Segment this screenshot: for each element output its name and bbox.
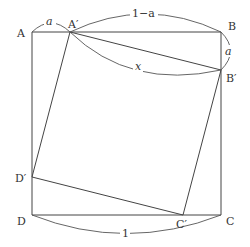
inner-square-A2B2C2D2 [32, 32, 221, 215]
vertex-label-B-prime: B′ [226, 72, 237, 85]
measure-label-BB2: a [225, 45, 232, 58]
vertex-label-C: C [226, 215, 234, 228]
vertex-label-D: D [17, 215, 26, 228]
vertex-label-D-prime: D′ [15, 172, 27, 185]
measure-label-AA2: a [46, 15, 53, 28]
measure-label-A2B2: x [135, 60, 142, 73]
vertex-label-A: A [16, 27, 26, 40]
measure-label-DC: 1 [122, 227, 129, 240]
outer-square-ABCD [32, 32, 221, 215]
square-rotation-diagram: A B C D A′ B′ C′ D′ a 1−a a x 1 [0, 0, 250, 247]
vertex-label-A-prime: A′ [67, 18, 79, 31]
vertex-label-C-prime: C′ [176, 218, 187, 231]
diagram-canvas: A B C D A′ B′ C′ D′ a 1−a a x 1 [0, 0, 250, 247]
vertex-label-B: B [228, 20, 236, 33]
brace-A2B2 [70, 32, 221, 75]
measure-label-A2B: 1−a [132, 7, 155, 20]
